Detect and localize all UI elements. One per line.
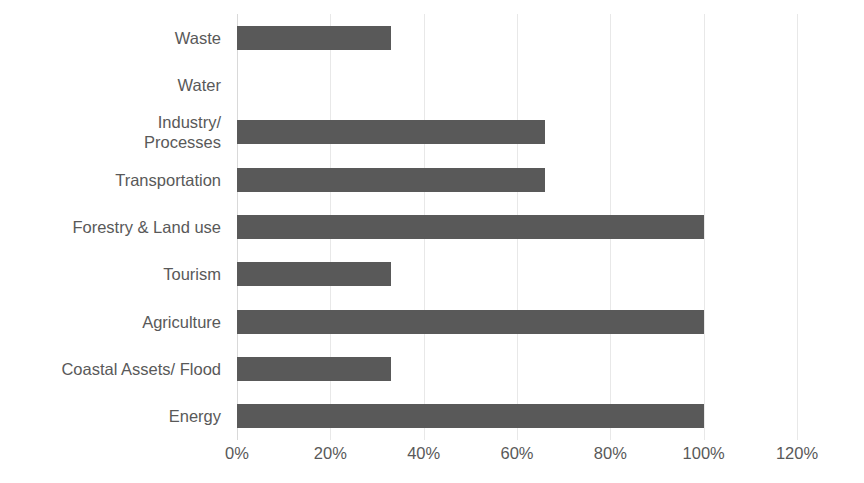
horizontal-bar-chart: WasteWaterIndustry/ ProcessesTransportat…: [0, 0, 864, 483]
category-label-transportation: Transportation: [0, 170, 229, 190]
x-tick-label-80pct: 80%: [594, 444, 627, 463]
category-label-energy: Energy: [0, 406, 229, 426]
x-tick-label-120pct: 120%: [776, 444, 818, 463]
category-label-forestry-land-use: Forestry & Land use: [0, 217, 229, 237]
x-tick-label-60pct: 60%: [500, 444, 533, 463]
bar-row: [237, 298, 797, 345]
bar-energy[interactable]: [237, 404, 704, 428]
gridline-120pct: [797, 14, 798, 440]
category-label-waste: Waste: [0, 28, 229, 48]
bar-row: [237, 61, 797, 108]
category-axis-labels: WasteWaterIndustry/ ProcessesTransportat…: [0, 14, 229, 440]
category-label-industry-processes: Industry/ Processes: [0, 112, 229, 152]
bar-agriculture[interactable]: [237, 310, 704, 334]
bar-row: [237, 251, 797, 298]
bar-row: [237, 393, 797, 440]
x-tick-label-0pct: 0%: [225, 444, 249, 463]
category-label-agriculture: Agriculture: [0, 312, 229, 332]
bar-row: [237, 345, 797, 392]
x-tick-label-40pct: 40%: [407, 444, 440, 463]
x-axis-tick-labels: 0%20%40%60%80%100%120%: [237, 444, 797, 474]
bar-row: [237, 156, 797, 203]
bar-waste[interactable]: [237, 26, 391, 50]
bar-industry-processes[interactable]: [237, 120, 545, 144]
bar-tourism[interactable]: [237, 262, 391, 286]
bar-row: [237, 203, 797, 250]
x-tick-label-100pct: 100%: [683, 444, 725, 463]
x-tick-label-20pct: 20%: [314, 444, 347, 463]
category-label-water: Water: [0, 75, 229, 95]
bar-transportation[interactable]: [237, 168, 545, 192]
category-label-tourism: Tourism: [0, 264, 229, 284]
category-label-coastal-assets-flood: Coastal Assets/ Flood: [0, 359, 229, 379]
bar-forestry-land-use[interactable]: [237, 215, 704, 239]
plot-area: [237, 14, 797, 440]
bar-row: [237, 14, 797, 61]
bar-row: [237, 109, 797, 156]
bar-coastal-assets-flood[interactable]: [237, 357, 391, 381]
